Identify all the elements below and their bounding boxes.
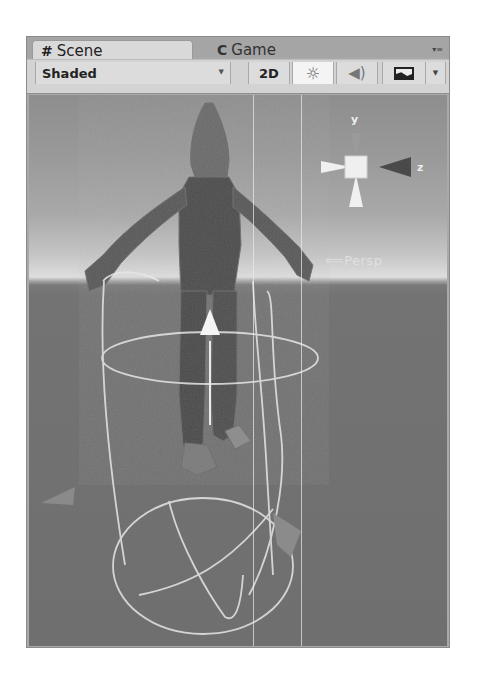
- panel-menu-icon[interactable]: ▾≡: [432, 45, 443, 54]
- tab-scene-label: Scene: [57, 42, 103, 60]
- draw-mode-dropdown[interactable]: Shaded ▼: [35, 62, 231, 84]
- tab-strip: # Scene C Game ▾≡: [27, 37, 449, 58]
- camera-gizmo-icon: [273, 513, 301, 557]
- toggle-2d-button[interactable]: 2D: [248, 62, 290, 84]
- projection-label[interactable]: ⟸Persp: [325, 253, 382, 268]
- draw-mode-value: Shaded: [42, 66, 97, 81]
- image-landscape-icon: [394, 67, 414, 80]
- effects-dropdown-button[interactable]: ▼: [426, 62, 446, 84]
- speaker-icon: ◀): [348, 64, 365, 82]
- axis-y-label: y: [351, 113, 358, 126]
- chevron-down-icon: ▼: [219, 68, 224, 76]
- tab-game[interactable]: C Game: [209, 40, 329, 60]
- lighting-toggle-button[interactable]: ☼: [292, 62, 334, 84]
- light-gizmo-icon: [41, 487, 75, 505]
- sun-icon: ☼: [306, 64, 320, 83]
- scene-view-panel: # Scene C Game ▾≡ Shaded ▼ 2D ☼ ◀) ▼: [26, 36, 450, 648]
- scene-toolbar: Shaded ▼ 2D ☼ ◀) ▼: [27, 59, 449, 94]
- audio-toggle-button[interactable]: ◀): [336, 62, 378, 84]
- axis-z-label: z: [417, 161, 423, 174]
- orientation-gizmo[interactable]: y z: [315, 109, 435, 219]
- effects-toggle-button[interactable]: [382, 62, 426, 84]
- grid-hash-icon: #: [41, 43, 53, 59]
- guide-line: [301, 95, 302, 646]
- tab-scene[interactable]: # Scene: [32, 40, 193, 60]
- tab-game-label: Game: [231, 41, 276, 59]
- scene-viewport[interactable]: y z ⟸Persp: [29, 95, 447, 646]
- guide-line: [253, 95, 254, 646]
- chevron-down-icon: ▼: [433, 69, 438, 77]
- pacman-game-icon: C: [217, 42, 227, 58]
